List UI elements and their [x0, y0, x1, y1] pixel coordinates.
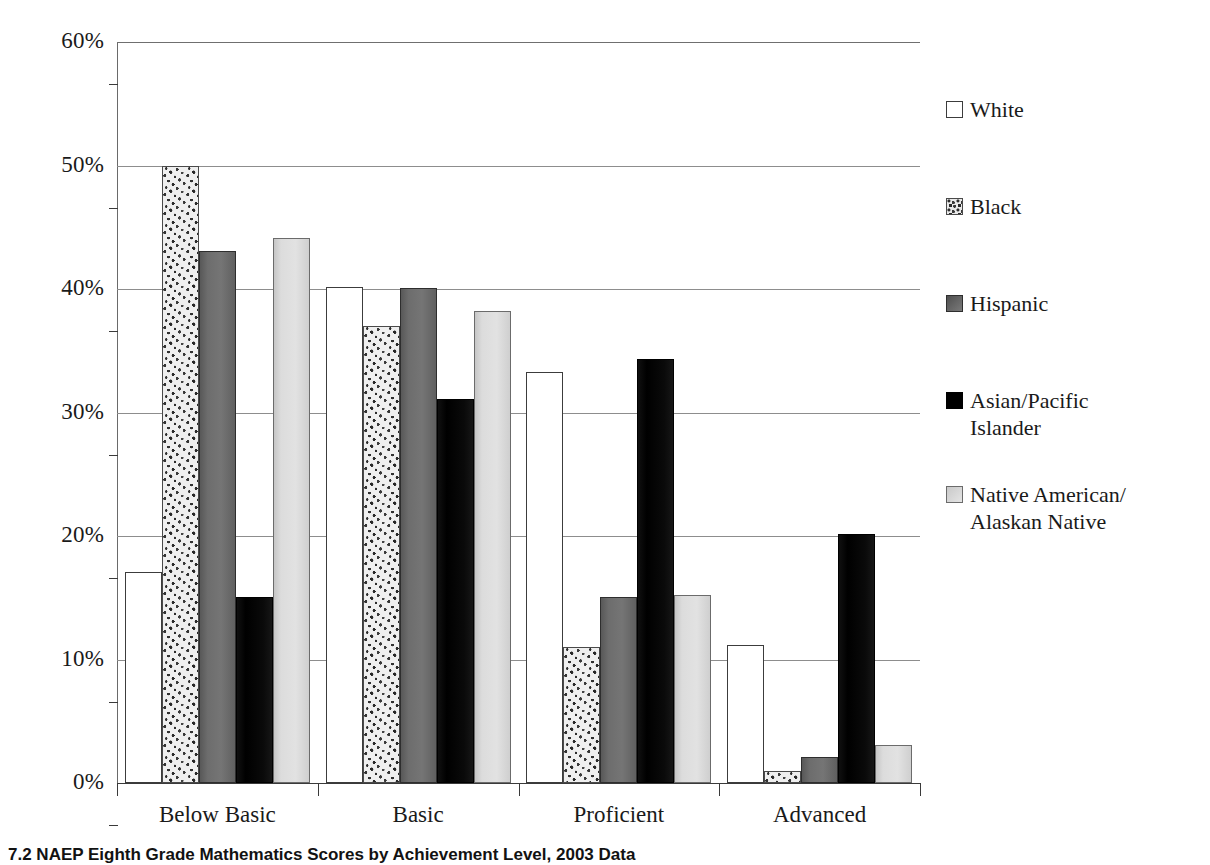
figure-caption: 7.2 NAEP Eighth Grade Mathematics Scores… — [8, 845, 908, 865]
bar-fill — [474, 311, 511, 783]
bar — [125, 572, 162, 783]
bar-group — [318, 42, 519, 783]
x-axis-labels: Below BasicBasicProficientAdvanced — [117, 800, 920, 840]
bar — [363, 326, 400, 783]
y-axis-labels: 0%10%20%30%40%50%60% — [0, 0, 104, 865]
bar-fill — [236, 597, 273, 783]
x-axis-label: Proficient — [519, 800, 720, 830]
legend-item[interactable]: Hispanic — [946, 290, 1048, 317]
bar-fill — [637, 359, 674, 783]
bar — [727, 645, 764, 783]
bar-fill — [727, 645, 764, 783]
legend-item[interactable]: Black — [946, 193, 1021, 220]
legend-item[interactable]: White — [946, 96, 1024, 123]
chart-figure: 0%10%20%30%40%50%60% Below BasicBasicPro… — [0, 0, 1210, 865]
bar-fill — [563, 647, 600, 783]
plot-area — [117, 42, 920, 783]
bar — [563, 647, 600, 783]
bar-fill — [162, 166, 199, 784]
y-tick-label: 0% — [73, 770, 104, 793]
legend-label: Black — [970, 193, 1021, 220]
bar-fill — [199, 251, 236, 783]
y-tick-label: 40% — [61, 276, 104, 299]
legend-label-line2: Alaskan Native — [970, 508, 1126, 535]
bar-fill — [875, 745, 912, 783]
bar-fill — [801, 757, 838, 783]
bar — [474, 311, 511, 783]
bar-fill — [674, 595, 711, 783]
y-tick-label: 30% — [61, 400, 104, 423]
legend-swatch-icon — [946, 101, 963, 118]
bar — [273, 238, 310, 783]
legend-label: Native American/Alaskan Native — [970, 481, 1126, 535]
x-axis-label: Advanced — [719, 800, 920, 830]
bar-group — [719, 42, 920, 783]
bar-fill — [326, 287, 363, 783]
x-tick — [318, 783, 319, 796]
legend-item[interactable]: Asian/PacificIslander — [946, 387, 1089, 441]
bar — [199, 251, 236, 783]
bar-fill — [838, 534, 875, 783]
bar — [838, 534, 875, 783]
bar-fill — [437, 399, 474, 783]
bar — [764, 771, 801, 783]
legend-label: Asian/PacificIslander — [970, 387, 1089, 441]
bar — [526, 372, 563, 783]
bar — [875, 745, 912, 783]
bar-fill — [600, 597, 637, 783]
y-tick-label: 60% — [61, 29, 104, 52]
legend-swatch-icon — [946, 486, 963, 503]
legend-label-line2: Islander — [970, 414, 1089, 441]
bar-fill — [526, 372, 563, 783]
bar — [637, 359, 674, 783]
x-axis-label: Below Basic — [117, 800, 318, 830]
legend-label: Hispanic — [970, 290, 1048, 317]
bar — [801, 757, 838, 783]
bar-fill — [125, 572, 162, 783]
legend-label: White — [970, 96, 1024, 123]
bar — [162, 166, 199, 784]
legend-swatch-icon — [946, 392, 963, 409]
x-tick — [519, 783, 520, 796]
bar — [326, 287, 363, 783]
bar — [437, 399, 474, 783]
bar — [236, 597, 273, 783]
x-axis-label: Basic — [318, 800, 519, 830]
y-tick-label: 10% — [61, 647, 104, 670]
legend-item[interactable]: Native American/Alaskan Native — [946, 481, 1126, 535]
bar-group — [519, 42, 720, 783]
x-tick — [117, 783, 118, 796]
bar-fill — [400, 288, 437, 783]
legend-swatch-icon — [946, 198, 963, 215]
bar-fill — [363, 326, 400, 783]
x-tick — [719, 783, 720, 796]
bar-fill — [764, 771, 801, 783]
y-tick-label: 50% — [61, 153, 104, 176]
x-tick — [920, 783, 921, 796]
bar-fill — [273, 238, 310, 783]
bar — [674, 595, 711, 783]
y-tick-label: 20% — [61, 523, 104, 546]
bar — [400, 288, 437, 783]
bar — [600, 597, 637, 783]
legend-swatch-icon — [946, 295, 963, 312]
bar-group — [117, 42, 318, 783]
